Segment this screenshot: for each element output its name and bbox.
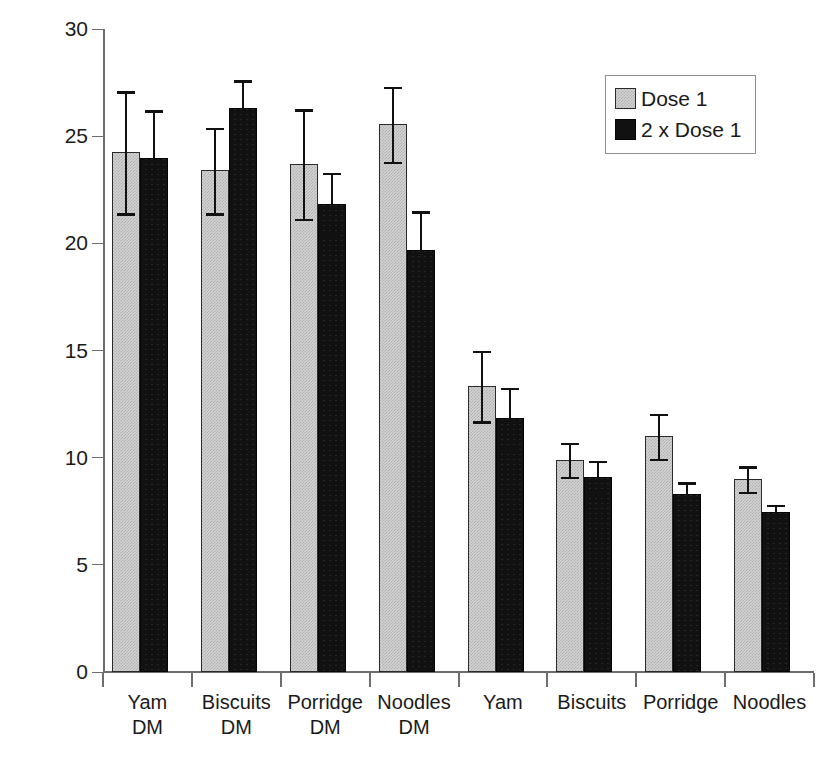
error-bar-cap-lower bbox=[767, 520, 785, 522]
y-axis-tick-label: 25 bbox=[28, 125, 88, 146]
error-bar-line bbox=[569, 443, 571, 477]
x-axis-tick bbox=[280, 673, 282, 687]
y-axis-tick bbox=[92, 243, 103, 244]
bar bbox=[584, 477, 612, 672]
bar bbox=[673, 494, 701, 672]
bar bbox=[290, 164, 318, 672]
legend-swatch-2x-dose-1 bbox=[615, 119, 636, 140]
legend-label-dose-1: Dose 1 bbox=[641, 88, 708, 109]
error-bar-cap-lower bbox=[650, 459, 668, 461]
error-bar-line bbox=[242, 80, 244, 136]
bar bbox=[496, 418, 524, 672]
x-axis-tick bbox=[546, 673, 548, 687]
error-bar-cap-upper bbox=[145, 110, 163, 112]
y-axis-tick-label: 30 bbox=[28, 18, 88, 39]
x-axis-category-label: Biscuits bbox=[547, 690, 636, 715]
error-bar-cap-upper bbox=[589, 461, 607, 463]
bar bbox=[140, 158, 168, 672]
error-bar-cap-upper bbox=[295, 109, 313, 111]
legend-label-2x-dose-1: 2 x Dose 1 bbox=[641, 119, 741, 140]
error-bar-cap-upper bbox=[234, 80, 252, 82]
bar-chart-figure: IAUC/GGE 051015202530 Yam DMBiscuits DMP… bbox=[0, 0, 829, 760]
x-axis-tick bbox=[458, 673, 460, 687]
error-bar-line bbox=[481, 351, 483, 422]
error-bar-line bbox=[420, 211, 422, 288]
error-bar-cap-lower bbox=[561, 477, 579, 479]
y-axis-tick bbox=[92, 29, 103, 30]
bar bbox=[318, 204, 346, 672]
chart-legend: Dose 1 2 x Dose 1 bbox=[605, 75, 756, 154]
error-bar-line bbox=[686, 482, 688, 506]
error-bar-cap-lower bbox=[589, 493, 607, 495]
error-bar-cap-lower bbox=[678, 506, 696, 508]
error-bar-line bbox=[597, 461, 599, 493]
error-bar-line bbox=[303, 109, 305, 218]
error-bar-cap-upper bbox=[650, 414, 668, 416]
error-bar-cap-upper bbox=[767, 505, 785, 507]
bar bbox=[229, 108, 257, 672]
x-axis-tick bbox=[191, 673, 193, 687]
error-bar-line bbox=[509, 388, 511, 448]
y-axis-tick-label: 5 bbox=[28, 554, 88, 575]
error-bar-cap-upper bbox=[501, 388, 519, 390]
bar bbox=[556, 460, 584, 672]
error-bar-cap-upper bbox=[739, 466, 757, 468]
x-axis-tick bbox=[369, 673, 371, 687]
error-bar-line bbox=[658, 414, 660, 459]
x-axis-category-label: Biscuits DM bbox=[192, 690, 281, 740]
legend-swatch-dose-1 bbox=[615, 88, 636, 109]
error-bar-cap-lower bbox=[501, 448, 519, 450]
bar bbox=[112, 152, 140, 672]
error-bar-cap-upper bbox=[384, 87, 402, 89]
bar bbox=[762, 512, 790, 672]
x-axis-tick bbox=[724, 673, 726, 687]
error-bar-cap-lower bbox=[234, 136, 252, 138]
error-bar-line bbox=[747, 466, 749, 492]
error-bar-line bbox=[125, 91, 127, 213]
y-axis-tick-label: 20 bbox=[28, 232, 88, 253]
bar bbox=[379, 124, 407, 672]
legend-item-dose-1: Dose 1 bbox=[615, 83, 741, 114]
error-bar-line bbox=[214, 128, 216, 214]
x-axis-category-label: Yam DM bbox=[103, 690, 192, 740]
x-axis-category-label: Yam bbox=[459, 690, 548, 715]
error-bar-cap-lower bbox=[145, 205, 163, 207]
y-axis-tick-labels: 051015202530 bbox=[20, 0, 88, 700]
error-bar-cap-upper bbox=[117, 91, 135, 93]
bar bbox=[645, 436, 673, 672]
y-axis-tick bbox=[92, 350, 103, 351]
error-bar-cap-upper bbox=[323, 173, 341, 175]
bar bbox=[407, 250, 435, 672]
error-bar-cap-upper bbox=[561, 443, 579, 445]
error-bar-cap-lower bbox=[473, 421, 491, 423]
error-bar-line bbox=[153, 110, 155, 204]
error-bar-cap-upper bbox=[678, 482, 696, 484]
y-axis-tick bbox=[92, 457, 103, 458]
x-axis-tick bbox=[102, 673, 104, 687]
error-bar-line bbox=[331, 173, 333, 235]
x-axis-tick bbox=[813, 673, 815, 687]
x-axis-tick bbox=[635, 673, 637, 687]
x-axis-category-label: Noodles DM bbox=[370, 690, 459, 740]
x-axis-category-label: Porridge DM bbox=[281, 690, 370, 740]
error-bar-cap-upper bbox=[412, 211, 430, 213]
error-bar-cap-upper bbox=[206, 128, 224, 130]
error-bar-cap-lower bbox=[739, 492, 757, 494]
error-bar-cap-lower bbox=[412, 288, 430, 290]
error-bar-line bbox=[392, 87, 394, 162]
error-bar-cap-lower bbox=[323, 235, 341, 237]
y-axis-tick-label: 10 bbox=[28, 447, 88, 468]
error-bar-cap-lower bbox=[206, 213, 224, 215]
x-axis-category-label: Noodles bbox=[725, 690, 814, 715]
x-axis-category-label: Porridge bbox=[636, 690, 725, 715]
error-bar-cap-lower bbox=[295, 219, 313, 221]
bar bbox=[734, 479, 762, 672]
y-axis-tick bbox=[92, 136, 103, 137]
y-axis-tick bbox=[92, 564, 103, 565]
error-bar-cap-lower bbox=[117, 213, 135, 215]
bar bbox=[201, 170, 229, 672]
bar bbox=[468, 386, 496, 672]
legend-item-2x-dose-1: 2 x Dose 1 bbox=[615, 114, 741, 145]
y-axis-tick-label: 0 bbox=[28, 661, 88, 682]
error-bar-cap-upper bbox=[473, 351, 491, 353]
